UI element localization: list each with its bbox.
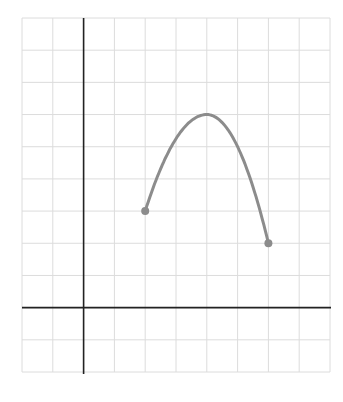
endpoint-dot bbox=[141, 207, 149, 215]
endpoint-dot bbox=[264, 239, 272, 247]
grid-lines bbox=[22, 18, 330, 372]
graph-plot bbox=[0, 0, 343, 402]
